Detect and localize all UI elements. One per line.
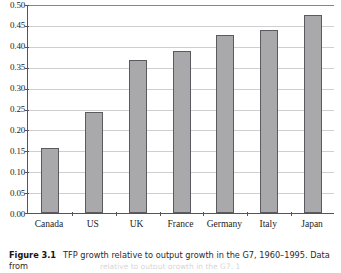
y-tick-mark-0.20 <box>25 130 29 131</box>
x-category-label-japan: Japan <box>290 219 334 229</box>
y-tick-label: 0.05 <box>0 189 25 198</box>
bar-canada <box>41 148 59 213</box>
gridline-0.00 <box>28 213 334 214</box>
plot-area <box>27 5 334 214</box>
y-tick-label: 0.10 <box>0 168 25 177</box>
x-tick-mark <box>247 212 248 216</box>
gridline-0.40 <box>28 47 334 48</box>
y-tick-mark-0.25 <box>25 110 29 111</box>
x-category-label-us: US <box>71 219 115 229</box>
x-category-label-germany: Germany <box>202 219 246 229</box>
y-tick-mark-0.10 <box>25 172 29 173</box>
y-tick-mark-0.00 <box>25 213 29 214</box>
y-tick-mark-0.45 <box>25 26 29 27</box>
y-tick-mark-0.40 <box>25 47 29 48</box>
x-category-label-france: France <box>159 219 203 229</box>
y-tick-label: 0.30 <box>0 84 25 93</box>
y-tick-mark-0.05 <box>25 193 29 194</box>
bar-uk <box>129 60 147 213</box>
y-tick-mark-0.15 <box>25 151 29 152</box>
x-category-label-italy: Italy <box>246 219 290 229</box>
y-tick-label: 0.45 <box>0 21 25 30</box>
y-tick-label: 0.00 <box>0 210 25 219</box>
bar-germany <box>216 35 234 213</box>
y-tick-label: 0.25 <box>0 105 25 114</box>
x-category-label-canada: Canada <box>27 219 71 229</box>
y-tick-label: 0.35 <box>0 63 25 72</box>
x-category-label-uk: UK <box>115 219 159 229</box>
y-tick-mark-0.35 <box>25 68 29 69</box>
y-tick-mark-0.50 <box>25 5 29 6</box>
bar-us <box>85 112 103 213</box>
x-tick-mark <box>203 212 204 216</box>
y-axis-tick-labels: 0.500.450.400.350.300.250.200.150.100.05… <box>0 5 25 214</box>
gridline-0.45 <box>28 26 334 27</box>
caption-figure-number: Figure 3.1 <box>9 250 56 260</box>
bar-chart: 0.500.450.400.350.300.250.200.150.100.05… <box>0 0 341 240</box>
x-tick-mark <box>116 212 117 216</box>
x-tick-mark <box>72 212 73 216</box>
bar-france <box>173 51 191 213</box>
y-tick-label: 0.50 <box>0 1 25 10</box>
x-tick-mark <box>291 212 292 216</box>
figure-container: 0.500.450.400.350.300.250.200.150.100.05… <box>0 0 341 273</box>
y-tick-label: 0.40 <box>0 42 25 51</box>
bar-japan <box>304 15 322 213</box>
caption-bleed-fragment: relative to output growth in the G7, 1 <box>100 262 260 269</box>
y-tick-mark-0.30 <box>25 89 29 90</box>
gridline-0.50 <box>28 5 334 6</box>
y-tick-label: 0.15 <box>0 147 25 156</box>
x-tick-mark <box>160 212 161 216</box>
y-tick-label: 0.20 <box>0 126 25 135</box>
bar-italy <box>260 30 278 213</box>
